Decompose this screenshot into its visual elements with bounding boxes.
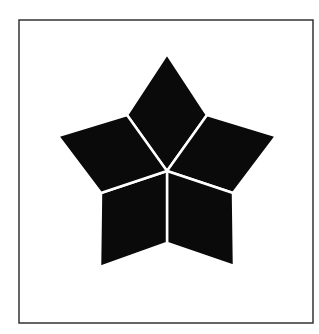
star-diagram [0,0,319,334]
